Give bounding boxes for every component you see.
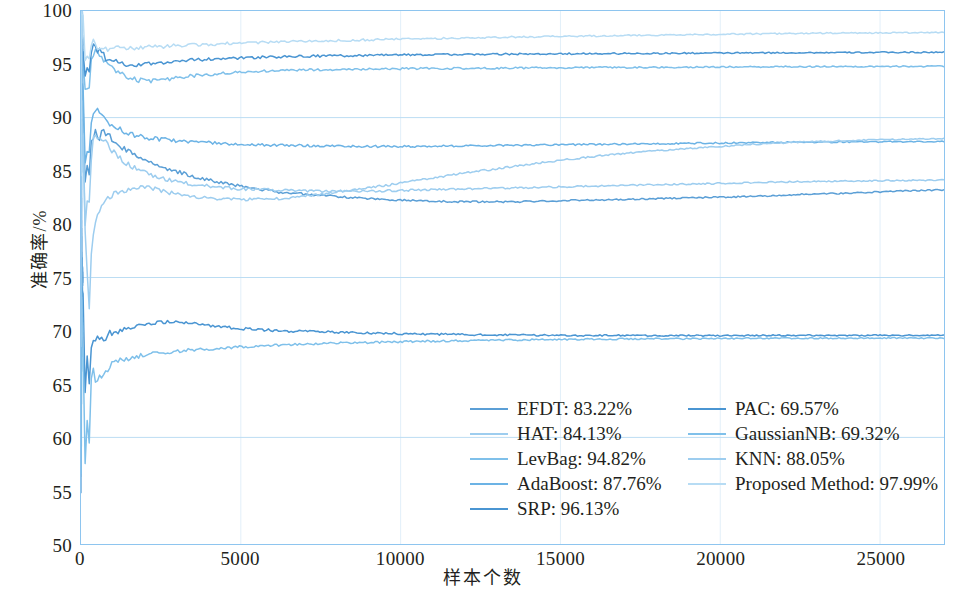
legend-label: GaussianNB: 69.32%	[735, 424, 900, 443]
legend-item-proposed-method: Proposed Method: 97.99%	[688, 471, 940, 496]
legend-item-srp: SRP: 96.13%	[470, 496, 688, 521]
chart-figure: 10095908580757065605550 准确率/% 0500010000…	[0, 0, 965, 590]
legend-label: EFDT: 83.22%	[517, 399, 632, 418]
y-tick-95: 95	[6, 54, 72, 73]
y-tick-60: 60	[6, 429, 72, 448]
legend-label: Proposed Method: 97.99%	[735, 474, 938, 493]
legend-line-icon	[688, 458, 726, 460]
legend-label: LevBag: 94.82%	[517, 449, 646, 468]
legend-item-pac: PAC: 69.57%	[688, 396, 940, 421]
legend-item-knn: KNN: 88.05%	[688, 446, 940, 471]
y-tick-50: 50	[6, 536, 72, 555]
legend-label: AdaBoost: 87.76%	[517, 474, 662, 493]
y-tick-90: 90	[6, 108, 72, 127]
x-axis-title: 样本个数	[0, 563, 965, 589]
y-tick-55: 55	[6, 482, 72, 501]
legend-item-gaussiannb: GaussianNB: 69.32%	[688, 421, 940, 446]
legend-line-icon	[688, 483, 726, 485]
legend-item-efdt: EFDT: 83.22%	[470, 396, 688, 421]
y-tick-65: 65	[6, 375, 72, 394]
legend-line-icon	[470, 508, 508, 510]
legend-item-levbag: LevBag: 94.82%	[470, 446, 688, 471]
legend-spacer	[688, 496, 940, 521]
chart-legend: EFDT: 83.22%PAC: 69.57%HAT: 84.13%Gaussi…	[470, 396, 940, 522]
legend-line-icon	[688, 408, 726, 410]
y-tick-85: 85	[6, 161, 72, 180]
legend-label: SRP: 96.13%	[517, 499, 619, 518]
y-tick-100: 100	[6, 1, 72, 20]
series-adaboost	[81, 11, 944, 281]
major-gridlines	[81, 118, 944, 438]
legend-label: HAT: 84.13%	[517, 424, 622, 443]
legend-item-adaboost: AdaBoost: 87.76%	[470, 471, 688, 496]
series-levbag	[81, 11, 944, 203]
series-proposed-method	[81, 11, 944, 176]
series-efdt	[81, 11, 944, 328]
legend-line-icon	[470, 408, 508, 410]
legend-label: PAC: 69.57%	[735, 399, 839, 418]
legend-line-icon	[470, 458, 508, 460]
legend-line-icon	[688, 433, 726, 435]
legend-line-icon	[470, 483, 508, 485]
legend-label: KNN: 88.05%	[735, 449, 845, 468]
y-tick-70: 70	[6, 322, 72, 341]
y-axis-title: 准确率/%	[25, 189, 51, 309]
legend-line-icon	[470, 433, 508, 435]
legend-item-hat: HAT: 84.13%	[470, 421, 688, 446]
